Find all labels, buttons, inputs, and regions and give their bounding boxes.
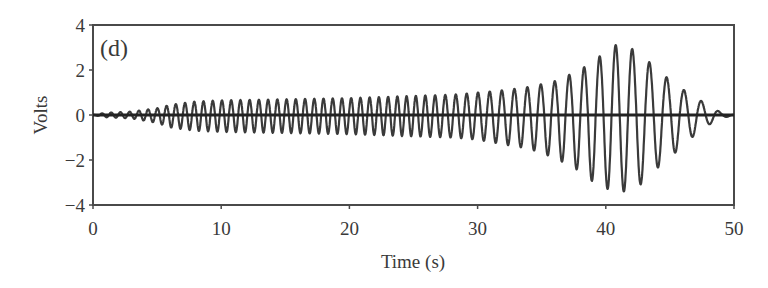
x-tick-label: 0: [88, 218, 98, 239]
y-tick-label: 0: [76, 105, 86, 126]
x-tick-label: 50: [725, 218, 744, 239]
y-axis: 420−2−4: [65, 15, 93, 216]
y-axis-title: Volts: [30, 96, 51, 135]
y-tick-label: 2: [76, 60, 86, 81]
y-tick-label: −2: [65, 150, 85, 171]
x-tick-label: 30: [468, 218, 487, 239]
signal-line: [93, 45, 734, 191]
x-axis: 01020304050: [88, 205, 743, 239]
x-tick-label: 20: [340, 218, 359, 239]
y-tick-label: 4: [76, 15, 86, 36]
x-tick-label: 40: [596, 218, 615, 239]
y-tick-label: −4: [65, 195, 86, 216]
chart: 420−2−4 01020304050 (d) Time (s) Volts: [0, 0, 768, 288]
x-tick-label: 10: [212, 218, 231, 239]
x-axis-title: Time (s): [381, 251, 445, 273]
panel-label: (d): [100, 35, 128, 61]
